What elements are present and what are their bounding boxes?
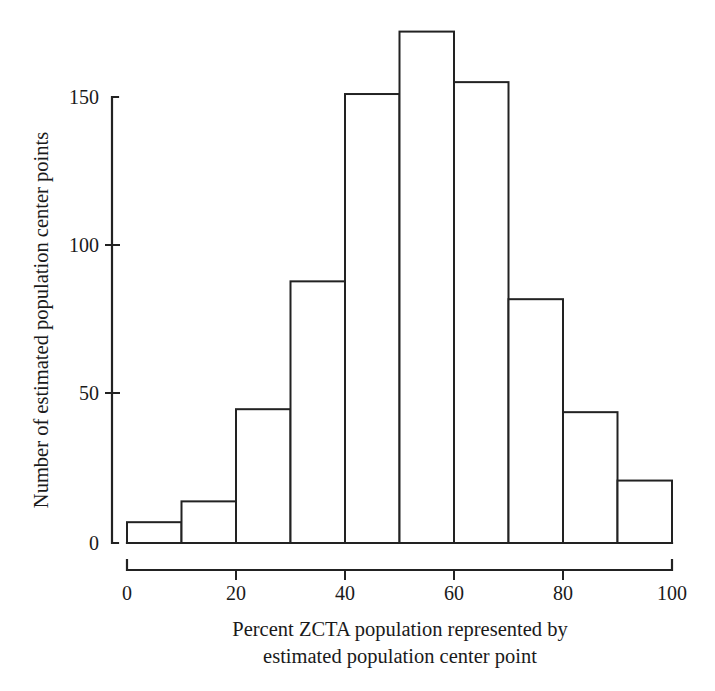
x-tick-label-100: 100 bbox=[657, 582, 687, 604]
x-tick-label-80: 80 bbox=[553, 582, 573, 604]
bar-bin-1 bbox=[182, 501, 237, 543]
y-axis-title: Number of estimated population center po… bbox=[30, 132, 53, 508]
x-tick-label-40: 40 bbox=[335, 582, 355, 604]
x-axis-line bbox=[127, 560, 672, 570]
bar-bin-0 bbox=[127, 522, 182, 543]
bar-bin-6 bbox=[454, 82, 509, 543]
y-axis-line bbox=[112, 97, 118, 543]
x-tick-label-0: 0 bbox=[122, 582, 132, 604]
histogram-chart: Number of estimated population center po… bbox=[0, 0, 715, 691]
bar-bin-2 bbox=[236, 409, 291, 543]
y-tick-label-100: 100 bbox=[69, 234, 99, 256]
bar-bin-5 bbox=[400, 32, 455, 543]
bar-bin-4 bbox=[345, 94, 400, 543]
bar-bin-7 bbox=[509, 299, 564, 543]
bar-bin-3 bbox=[291, 281, 346, 543]
figure-page: Number of estimated population center po… bbox=[0, 0, 715, 691]
y-tick-label-50: 50 bbox=[79, 382, 99, 404]
bar-bin-9 bbox=[618, 481, 673, 543]
x-axis-title-line2: estimated population center point bbox=[263, 645, 537, 668]
x-tick-label-20: 20 bbox=[226, 582, 246, 604]
y-tick-label-150: 150 bbox=[69, 86, 99, 108]
bars-group bbox=[127, 32, 672, 543]
x-tick-group bbox=[236, 570, 563, 580]
x-tick-label-60: 60 bbox=[444, 582, 464, 604]
bar-bin-8 bbox=[563, 412, 618, 543]
y-tick-label-0: 0 bbox=[89, 532, 99, 554]
x-axis-title-line1: Percent ZCTA population represented by bbox=[232, 618, 568, 641]
